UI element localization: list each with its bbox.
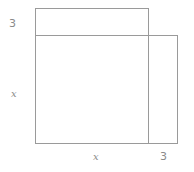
right-strip-rect <box>149 36 178 144</box>
square-side-bottom-label: x <box>93 151 99 162</box>
right-strip-label: 3 <box>160 151 167 162</box>
x-square-rect <box>36 36 149 144</box>
top-strip-label: 3 <box>9 18 16 29</box>
square-side-left-label: x <box>11 88 17 99</box>
area-model-diagram <box>0 0 194 172</box>
top-strip-rect <box>36 9 149 36</box>
